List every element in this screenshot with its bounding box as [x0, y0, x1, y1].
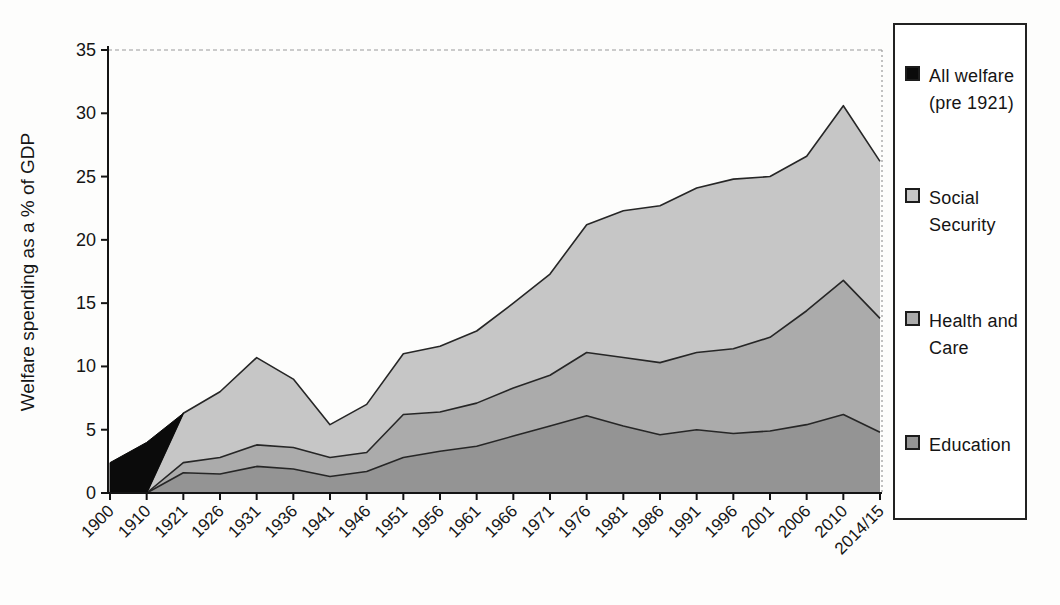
x-tick-label-1946: 1946: [334, 501, 374, 541]
y-tick-label-20: 20: [76, 230, 96, 250]
welfare-spending-chart: 0510152025303519001910192119261931193619…: [0, 0, 1060, 605]
x-tick-label-1981: 1981: [591, 501, 631, 541]
legend-label-social-security: Social Security: [929, 185, 996, 239]
y-axis-title: Welfare spending as a % of GDP: [17, 133, 38, 411]
x-tick-label-1921: 1921: [151, 501, 191, 541]
x-tick-label-1931: 1931: [224, 501, 264, 541]
x-tick-label-1910: 1910: [114, 501, 154, 541]
y-tick-label-25: 25: [76, 167, 96, 187]
legend-label-all-welfare: All welfare (pre 1921): [929, 63, 1014, 117]
legend: All welfare (pre 1921) Social Security H…: [893, 23, 1027, 520]
x-tick-label-1971: 1971: [518, 501, 558, 541]
x-tick-label-1936: 1936: [261, 501, 301, 541]
y-tick-label-35: 35: [76, 40, 96, 60]
legend-item-education: Education: [905, 432, 1011, 459]
y-tick-label-5: 5: [86, 420, 96, 440]
y-tick-label-0: 0: [86, 483, 96, 503]
legend-swatch-health-and-care: [905, 311, 920, 326]
legend-swatch-social-security: [905, 188, 920, 203]
x-tick-label-2001: 2001: [738, 501, 778, 541]
legend-label-education: Education: [929, 432, 1011, 459]
x-tick-label-1956: 1956: [408, 501, 448, 541]
legend-item-social-security: Social Security: [905, 185, 996, 239]
y-tick-label-15: 15: [76, 293, 96, 313]
x-tick-label-1926: 1926: [188, 501, 228, 541]
x-tick-label-1996: 1996: [701, 501, 741, 541]
legend-label-health-and-care: Health and Care: [929, 308, 1018, 362]
y-tick-label-30: 30: [76, 103, 96, 123]
x-tick-label-2006: 2006: [774, 501, 814, 541]
x-tick-label-1976: 1976: [554, 501, 594, 541]
x-tick-label-1900: 1900: [78, 501, 118, 541]
legend-item-health-and-care: Health and Care: [905, 308, 1018, 362]
x-tick-label-1991: 1991: [664, 501, 704, 541]
x-tick-label-1951: 1951: [371, 501, 411, 541]
y-tick-label-10: 10: [76, 356, 96, 376]
x-tick-label-1961: 1961: [444, 501, 484, 541]
x-tick-label-1966: 1966: [481, 501, 521, 541]
x-tick-label-1941: 1941: [298, 501, 338, 541]
legend-item-all-welfare-pre-1921: All welfare (pre 1921): [905, 63, 1014, 117]
legend-swatch-all-welfare: [905, 66, 920, 81]
legend-swatch-education: [905, 435, 920, 450]
x-tick-label-1986: 1986: [628, 501, 668, 541]
